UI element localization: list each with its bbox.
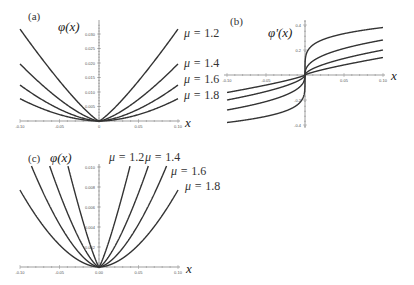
x-tick-label: 0.05	[340, 78, 349, 83]
panel-c-label-mu-1-2: μ = 1.2	[108, 150, 144, 164]
panel-b-ylabel: φ'(x)	[268, 25, 292, 40]
curve-mu-1-2	[99, 166, 130, 267]
panel-a-axes: -0.10-0.0500.050.100.0050.0100.0150.0200…	[15, 20, 182, 129]
y-tick-label: 0.010	[85, 165, 96, 170]
figure: (a) φ(x) x -0.10-0.0500.050.100.0050.010…	[0, 0, 414, 285]
y-tick-label: 0.004	[85, 225, 96, 230]
y-tick-label: 0.006	[85, 205, 96, 210]
curve-mu-1-8	[99, 190, 178, 267]
panel-c-xlabel: x	[185, 261, 192, 276]
curve-mu-1-2	[68, 166, 99, 267]
panel-a-ylabel: φ(x)	[58, 19, 80, 34]
x-tick-label: 0.05	[135, 124, 144, 129]
panel-a: (a) φ(x) x -0.10-0.0500.050.100.0050.010…	[15, 10, 219, 130]
y-tick-label: 0.2	[295, 48, 301, 53]
x-tick-label: -0.05	[55, 270, 65, 275]
x-tick-label: -0.10	[15, 270, 25, 275]
x-tick-label: 0.00	[95, 270, 104, 275]
panel-c-axes: -0.10-0.050.000.050.100.0020.0040.0060.0…	[15, 164, 182, 275]
y-tick-label: 0.015	[85, 75, 96, 80]
x-tick-label: 0.10	[174, 124, 183, 129]
panel-b: (b) φ'(x) x -0.10-0.050.050.10-0.4-0.20.…	[222, 15, 397, 128]
x-tick-label: -0.05	[55, 124, 65, 129]
panel-b-xlabel: x	[390, 68, 397, 83]
panel-a-xlabel: x	[184, 115, 191, 130]
x-tick-label: 0.10	[379, 78, 388, 83]
y-tick-label: -0.4	[294, 123, 302, 128]
curve-mu-1-4	[99, 166, 148, 267]
panel-c-label-mu-1-8: μ = 1.8	[184, 179, 220, 193]
x-tick-label: 0	[98, 124, 101, 129]
panel-c-label: (c)	[28, 152, 41, 165]
curve-mu-1-4	[50, 166, 99, 267]
y-tick-label: 0.008	[85, 185, 96, 190]
panel-a-label-mu-1-8: μ = 1.8	[183, 88, 219, 102]
panel-a-legend: μ = 1.2 μ = 1.4 μ = 1.6 μ = 1.8	[183, 26, 219, 102]
y-tick-label: 0.030	[85, 32, 96, 37]
panel-c-ylabel: φ(x)	[50, 150, 72, 165]
panel-a-label-mu-1-4: μ = 1.4	[183, 56, 219, 70]
y-tick-label: 0.020	[85, 61, 96, 66]
panel-c: (c) φ(x) x -0.10-0.050.000.050.100.0020.…	[15, 150, 220, 276]
panel-c-label-mu-1-6: μ = 1.6	[170, 164, 206, 178]
x-tick-label: -0.05	[261, 78, 271, 83]
panel-b-label: (b)	[230, 15, 243, 28]
x-tick-label: -0.10	[15, 124, 25, 129]
curve-mu-1-6	[31, 166, 99, 267]
x-tick-label: 0.05	[135, 270, 144, 275]
panel-a-label: (a)	[28, 10, 41, 23]
y-tick-label: 0.010	[85, 90, 96, 95]
curve-mu-1-6	[99, 166, 167, 267]
x-tick-label: 0.10	[174, 270, 183, 275]
y-tick-label: 0.005	[85, 104, 96, 109]
panel-a-label-mu-1-2: μ = 1.2	[183, 26, 219, 40]
panel-a-label-mu-1-6: μ = 1.6	[183, 72, 219, 86]
x-tick-label: -0.10	[222, 78, 232, 83]
y-tick-label: 0.025	[85, 46, 96, 51]
y-tick-label: 0.4	[295, 23, 301, 28]
panel-c-label-mu-1-4: μ = 1.4	[144, 150, 180, 164]
